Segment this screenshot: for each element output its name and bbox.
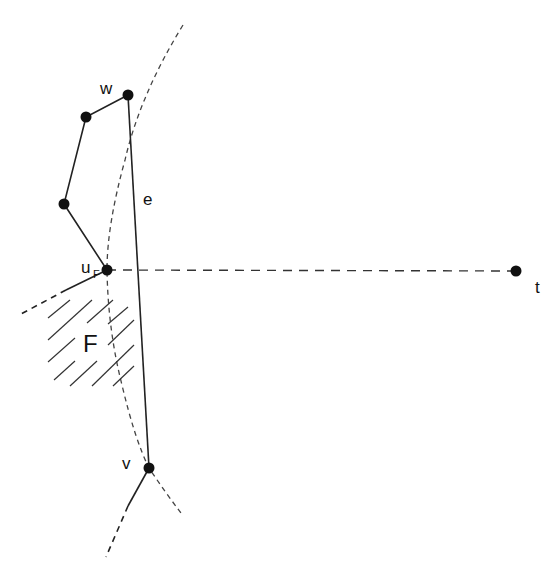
edge-v-down-solid [128, 468, 149, 506]
node-uf [102, 265, 113, 276]
label-t: t [535, 278, 540, 297]
diagram-canvas: w e u F F v t [0, 0, 560, 571]
node-w [123, 90, 134, 101]
label-e: e [143, 190, 152, 209]
dashed-arc [107, 25, 183, 513]
node-p1 [81, 112, 92, 123]
label-w: w [99, 79, 113, 98]
label-face-f: F [83, 330, 98, 357]
node-p2 [59, 199, 70, 210]
label-u: u [81, 258, 90, 277]
dashed-line-uf-t [107, 270, 516, 271]
label-v: v [122, 454, 131, 473]
node-v [144, 463, 155, 474]
path-w-to-uf [64, 95, 128, 270]
edge-v-down-dashed [106, 506, 128, 557]
edge-e [128, 95, 149, 468]
edge-uf-left-dashed [21, 290, 66, 314]
node-t [511, 266, 522, 277]
label-u-subscript: F [93, 268, 100, 280]
